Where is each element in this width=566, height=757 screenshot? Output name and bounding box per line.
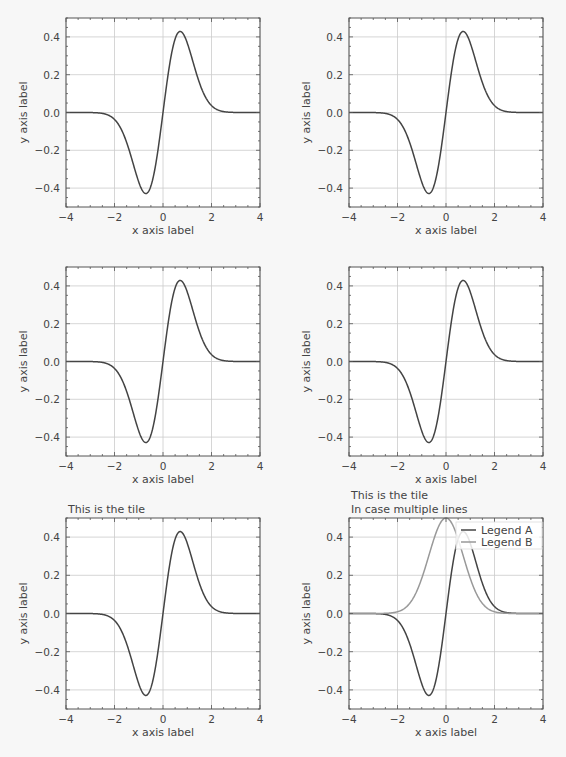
x-tick-label: 2 (491, 713, 498, 725)
y-tick-label: 0.2 (326, 69, 343, 81)
y-tick-label: 0.0 (43, 608, 60, 620)
y-tick-label: 0.2 (43, 318, 60, 330)
y-tick-label: −0.4 (318, 182, 344, 194)
x-tick-label: 2 (208, 460, 215, 472)
x-tick-label: −2 (107, 460, 122, 472)
y-tick-label: 0.2 (43, 569, 60, 581)
x-tick-label: −4 (341, 713, 357, 725)
y-tick-label: 0.4 (43, 31, 60, 43)
y-tick-label: 0.4 (326, 531, 343, 543)
x-tick-label: −4 (58, 211, 74, 223)
x-tick-label: 0 (443, 713, 450, 725)
x-tick-label: 4 (257, 460, 264, 472)
x-tick-label: 2 (208, 211, 215, 223)
legend: Legend ALegend B (456, 522, 542, 549)
subplot-row1-col1: −4−2024−0.4−0.20.00.20.4x axis labely ax… (17, 18, 264, 237)
y-axis-label: y axis label (300, 330, 313, 392)
subplot-title: This is the tile (350, 489, 428, 502)
x-tick-label: −2 (390, 211, 405, 223)
subplot-row3-col2: −4−2024−0.4−0.20.00.20.4x axis labely ax… (300, 489, 547, 739)
x-tick-label: 4 (540, 713, 547, 725)
y-tick-label: 0.4 (43, 531, 60, 543)
legend-label: Legend B (481, 536, 532, 549)
y-tick-label: −0.2 (318, 393, 344, 405)
x-tick-label: 4 (257, 713, 264, 725)
subplot-title: In case multiple lines (351, 503, 468, 516)
y-tick-label: 0.0 (326, 107, 343, 119)
figure: −4−2024−0.4−0.20.00.20.4x axis labely ax… (0, 0, 566, 757)
x-axis-label: x axis label (132, 726, 194, 739)
y-tick-label: 0.0 (326, 356, 343, 368)
x-tick-label: −4 (58, 713, 74, 725)
x-axis-label: x axis label (132, 473, 194, 486)
x-axis-label: x axis label (132, 224, 194, 237)
x-tick-label: 0 (443, 211, 450, 223)
x-tick-label: −4 (341, 211, 357, 223)
x-tick-label: 0 (160, 713, 167, 725)
y-tick-label: 0.4 (326, 31, 343, 43)
subplot-row1-col2: −4−2024−0.4−0.20.00.20.4x axis labely ax… (300, 18, 547, 237)
x-tick-label: 4 (540, 460, 547, 472)
y-tick-label: 0.2 (326, 569, 343, 581)
y-tick-label: −0.2 (318, 646, 344, 658)
y-tick-label: −0.4 (35, 431, 61, 443)
x-tick-label: 0 (160, 211, 167, 223)
y-tick-label: 0.2 (326, 318, 343, 330)
x-tick-label: 4 (540, 211, 547, 223)
y-tick-label: −0.4 (35, 182, 61, 194)
x-tick-label: 2 (491, 211, 498, 223)
y-axis-label: y axis label (17, 330, 30, 392)
y-axis-label: y axis label (300, 81, 313, 143)
y-tick-label: 0.0 (43, 107, 60, 119)
y-tick-label: 0.0 (43, 356, 60, 368)
x-axis-label: x axis label (415, 224, 477, 237)
y-tick-label: −0.2 (35, 144, 61, 156)
subplot-row3-col1: −4−2024−0.4−0.20.00.20.4x axis labely ax… (17, 503, 264, 739)
x-tick-label: 2 (208, 713, 215, 725)
y-tick-label: −0.2 (35, 646, 61, 658)
y-tick-label: 0.0 (326, 608, 343, 620)
y-tick-label: 0.4 (326, 280, 343, 292)
y-tick-label: −0.4 (318, 684, 344, 696)
x-tick-label: 4 (257, 211, 264, 223)
y-tick-label: 0.4 (43, 280, 60, 292)
x-tick-label: 0 (160, 460, 167, 472)
y-tick-label: 0.2 (43, 69, 60, 81)
x-tick-label: −4 (341, 460, 357, 472)
y-tick-label: −0.2 (35, 393, 61, 405)
x-tick-label: −2 (390, 460, 405, 472)
x-tick-label: −4 (58, 460, 74, 472)
x-axis-label: x axis label (415, 726, 477, 739)
x-tick-label: −2 (390, 713, 405, 725)
x-tick-label: −2 (107, 211, 122, 223)
y-tick-label: −0.4 (318, 431, 344, 443)
y-tick-label: −0.2 (318, 144, 344, 156)
y-tick-label: −0.4 (35, 684, 61, 696)
x-tick-label: 2 (491, 460, 498, 472)
x-tick-label: −2 (107, 713, 122, 725)
y-axis-label: y axis label (17, 582, 30, 644)
x-tick-label: 0 (443, 460, 450, 472)
subplot-row2-col1: −4−2024−0.4−0.20.00.20.4x axis labely ax… (17, 267, 264, 486)
subplot-row2-col2: −4−2024−0.4−0.20.00.20.4x axis labely ax… (300, 267, 547, 486)
y-axis-label: y axis label (300, 582, 313, 644)
x-axis-label: x axis label (415, 473, 477, 486)
y-axis-label: y axis label (17, 81, 30, 143)
subplot-title: This is the tile (67, 503, 145, 516)
